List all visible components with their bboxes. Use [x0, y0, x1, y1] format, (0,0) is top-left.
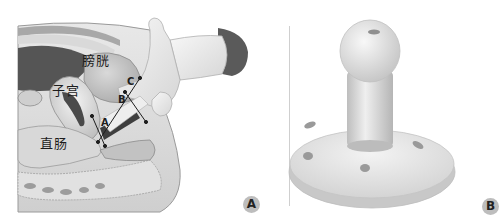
- panel-b-badge: B: [482, 198, 499, 215]
- panel-a-anatomy: 子宫 膀胱 直肠 A B C A: [0, 0, 262, 224]
- label-uterus: 子宫: [52, 80, 79, 99]
- panel-b-pessary: B: [262, 0, 504, 224]
- measure-point-a: A: [101, 117, 109, 128]
- label-rectum: 直肠: [40, 133, 67, 152]
- measure-point-c: C: [127, 76, 134, 87]
- panel-a-badge: A: [243, 196, 260, 213]
- label-bladder: 膀胱: [82, 50, 109, 69]
- pelvic-section-illustration: [0, 0, 262, 224]
- measure-point-b: B: [118, 94, 126, 105]
- pessary-illustration: [262, 0, 504, 224]
